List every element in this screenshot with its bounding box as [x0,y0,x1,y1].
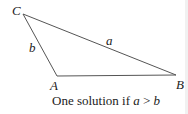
side-label-b: b [29,40,36,55]
caption-prefix: One solution if [52,93,133,108]
caption-operator: > [140,93,154,108]
page-edge [185,0,188,114]
vertex-label-a: A [49,78,58,93]
caption: One solution if a > b [52,93,161,108]
caption-var-b: b [154,93,161,108]
triangle-diagram: C b a A B One solution if a > b [0,0,188,114]
triangle-abc [23,14,176,76]
vertex-label-c: C [12,3,21,18]
triangle-figure: C b a A B One solution if a > b [0,0,188,114]
side-label-a: a [106,33,113,48]
vertex-label-b: B [176,77,184,92]
